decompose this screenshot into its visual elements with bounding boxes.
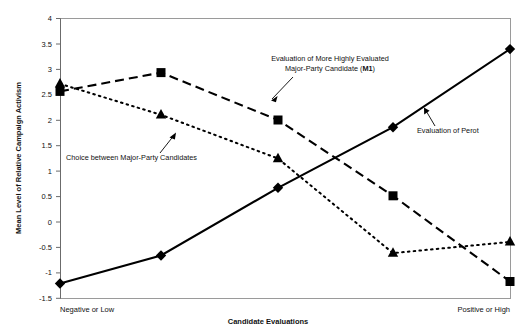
y-tick-label: -1.5 — [39, 294, 52, 303]
y-tick-label: 3.5 — [42, 40, 52, 49]
annotation-m1-bold: M1 — [362, 64, 372, 73]
y-tick-label: 3 — [48, 65, 52, 74]
data-point-marker — [506, 277, 515, 286]
y-axis-title: Mean Level of Relative Campaign Activism — [14, 82, 23, 234]
x-tick-label-negative: Negative or Low — [60, 305, 115, 314]
y-tick-label: -1 — [45, 268, 52, 277]
data-point-marker — [274, 116, 283, 125]
y-tick-label: 1.5 — [42, 141, 52, 150]
y-tick-label: 4 — [48, 14, 52, 23]
x-tick-label-positive: Positive or High — [457, 305, 510, 314]
data-point-marker — [157, 68, 166, 77]
y-tick-label: 2 — [48, 116, 52, 125]
data-point-marker — [389, 191, 398, 200]
annotation-m1-suffix: ) — [373, 64, 375, 73]
y-tick-label: 0 — [48, 218, 52, 227]
y-tick-label: -0.5 — [39, 243, 52, 252]
annotation-choice-label: Choice between Major-Party Candidates — [66, 153, 197, 162]
annotation-m1-line1: Evaluation of More Highly Evaluated — [271, 54, 389, 63]
annotation-perot-label: Evaluation of Perot — [417, 126, 479, 135]
chart-svg: 4 3.5 3 2.5 2 1.5 1 0.5 0 -0.5 -1 -1.5 M… — [0, 0, 528, 335]
data-point-marker — [56, 87, 65, 96]
y-tick-label: 1 — [48, 167, 52, 176]
annotation-m1-line2: Major-Party Candidate (M1) — [285, 64, 375, 73]
chart-figure: 4 3.5 3 2.5 2 1.5 1 0.5 0 -0.5 -1 -1.5 M… — [0, 0, 528, 335]
x-axis-title: Candidate Evaluations — [228, 317, 308, 326]
y-tick-label: 2.5 — [42, 90, 52, 99]
y-tick-label: 0.5 — [42, 192, 52, 201]
annotation-m1-prefix: Major-Party Candidate ( — [285, 64, 363, 73]
chart-background — [0, 0, 528, 335]
